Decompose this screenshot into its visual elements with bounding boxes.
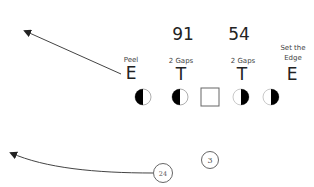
running-back-label: 24	[159, 170, 167, 178]
right-end-assignment-line1: Set the	[280, 44, 305, 52]
quarterback: 3	[202, 152, 219, 169]
quarterback-label: 3	[207, 156, 212, 165]
left-end-letter: E	[126, 63, 137, 83]
left-tackle-letter: T	[175, 64, 187, 84]
right-end-assignment-line2: Edge	[284, 54, 302, 62]
right-tackle-ol	[263, 89, 279, 105]
right-end-letter: E	[287, 64, 298, 84]
right-tackle-number: 54	[228, 24, 250, 44]
right-guard-ol	[233, 89, 249, 105]
peel-route-arrow	[25, 31, 121, 74]
running-back: 24	[154, 164, 173, 183]
left-tackle-number: 91	[172, 24, 194, 44]
running-back-route-arrow	[11, 153, 153, 173]
play-diagram: 91 54 Peel E 2 Gaps T 2 Gaps T Set the E…	[0, 0, 314, 187]
right-tackle-letter: T	[236, 64, 248, 84]
left-tackle-ol	[135, 89, 151, 105]
left-guard-ol	[172, 89, 188, 105]
center-ol	[201, 88, 219, 106]
